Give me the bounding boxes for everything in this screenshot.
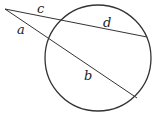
label-d: d bbox=[103, 15, 111, 30]
secant-diagram: c d a b bbox=[0, 0, 152, 113]
label-b: b bbox=[84, 68, 92, 83]
label-c: c bbox=[37, 1, 45, 16]
circle bbox=[45, 5, 151, 111]
label-a: a bbox=[17, 22, 25, 37]
